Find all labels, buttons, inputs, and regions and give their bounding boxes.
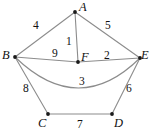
vertex-dot-c bbox=[46, 112, 50, 116]
edge-weight-a-f: 1 bbox=[66, 36, 72, 48]
vertex-label-a: A bbox=[79, 1, 87, 14]
edge-weight-a-e: 5 bbox=[105, 20, 111, 32]
edge-weight-c-d: 7 bbox=[77, 119, 83, 131]
vertex-label-c: C bbox=[38, 117, 46, 130]
vertex-label-b: B bbox=[2, 49, 10, 62]
vertex-dot-f bbox=[76, 60, 80, 64]
edge-weight-b-c: 8 bbox=[23, 83, 29, 95]
vertex-label-d: D bbox=[114, 117, 123, 130]
vertex-label-f: F bbox=[81, 51, 89, 64]
vertex-dot-b bbox=[13, 55, 17, 59]
vertex-dot-a bbox=[73, 10, 77, 14]
edge-weight-f-e: 2 bbox=[104, 50, 110, 62]
edge-b-c bbox=[15, 57, 48, 114]
vertex-label-e: E bbox=[141, 49, 149, 62]
edge-weight-a-b: 4 bbox=[33, 20, 39, 32]
graph-diagram-figure: 451923867 ABCDEF bbox=[0, 0, 153, 135]
edge-weight-b-f: 9 bbox=[52, 48, 58, 60]
edge-b-f bbox=[15, 57, 78, 62]
edge-a-f bbox=[75, 12, 78, 62]
edge-weight-b-e: 3 bbox=[79, 76, 85, 88]
graph-canvas bbox=[0, 0, 153, 135]
edge-weight-e-d: 6 bbox=[126, 83, 132, 95]
